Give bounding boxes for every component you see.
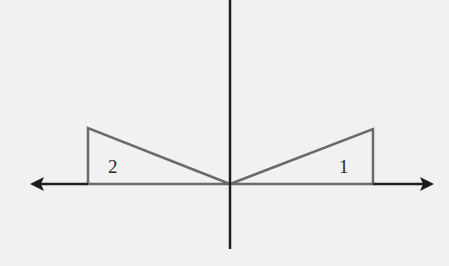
triangle-1-label: 1: [339, 157, 349, 176]
diagram-svg: [0, 0, 449, 266]
triangle-2-label: 2: [108, 157, 118, 176]
diagram-canvas: 2 1: [0, 0, 449, 266]
triangle-1: [230, 129, 373, 184]
